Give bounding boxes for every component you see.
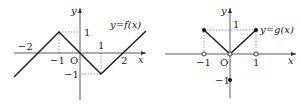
x-axis-label: x xyxy=(288,55,294,66)
tick-label-y-neg1: −1 xyxy=(215,75,230,86)
graph-f: −2 −1 O 1 2 x y 1 −1 y=f(x) xyxy=(14,5,146,100)
origin-label: O xyxy=(70,55,78,66)
tick-label-y-neg1: −1 xyxy=(64,69,79,80)
tick-label-x-1: 1 xyxy=(98,40,104,51)
tick-label-x-neg1: −1 xyxy=(196,57,211,68)
x-axis-label: x xyxy=(138,54,144,65)
filled-point xyxy=(202,28,206,32)
open-point xyxy=(254,52,258,56)
tick-label-x-neg1: −1 xyxy=(50,55,65,66)
y-axis-label: y xyxy=(220,5,227,16)
tick-label-y-1: 1 xyxy=(84,27,90,38)
tick-label-x-1: 1 xyxy=(253,57,259,68)
tick-label-x-2: 2 xyxy=(121,55,127,66)
curve-label-f: y=f(x) xyxy=(109,19,141,30)
y-axis-arrow-icon xyxy=(228,8,232,13)
tick-label-x-neg2: −2 xyxy=(18,41,33,52)
open-point xyxy=(228,52,232,56)
open-point xyxy=(202,52,206,56)
function-graphs: −2 −1 O 1 2 x y 1 −1 y=f(x) −1 O 1 x y 1… xyxy=(0,0,301,106)
segment-right xyxy=(230,30,256,54)
segment-left xyxy=(204,30,230,54)
filled-point xyxy=(254,28,258,32)
y-axis-label: y xyxy=(70,5,77,16)
graph-g: −1 O 1 x y 1 −1 y=g(x) xyxy=(165,5,296,98)
curve-label-g: y=g(x) xyxy=(259,24,294,35)
tick-label-y-1: 1 xyxy=(233,19,239,30)
origin-label: O xyxy=(220,57,228,68)
y-axis-arrow-icon xyxy=(78,8,82,13)
